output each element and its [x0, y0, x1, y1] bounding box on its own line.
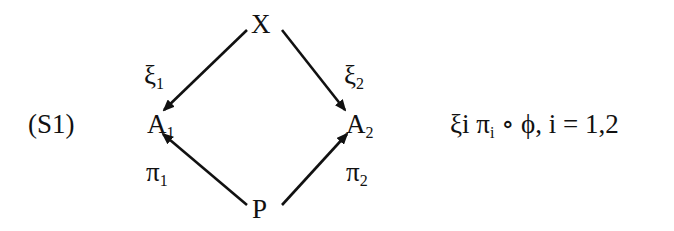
node-a2: A2: [346, 111, 374, 141]
arrow-x-to-a1: [164, 30, 247, 110]
edge-label-xi1: ξ1: [144, 62, 164, 92]
arrow-p-to-a1: [163, 134, 247, 205]
arrow-x-to-a2: [282, 30, 345, 110]
edge-label-pi1: π1: [146, 159, 168, 189]
commutativity-condition: ξi πi ∘ ϕ, i = 1,2: [450, 111, 619, 141]
node-a1: A1: [147, 111, 175, 141]
arrow-p-to-a2: [282, 134, 347, 205]
diagram-label: (S1): [28, 111, 75, 138]
edge-label-pi2: π2: [346, 159, 368, 189]
node-x: X: [251, 11, 271, 38]
edge-label-xi2: ξ2: [344, 62, 364, 92]
node-p: P: [252, 196, 267, 223]
